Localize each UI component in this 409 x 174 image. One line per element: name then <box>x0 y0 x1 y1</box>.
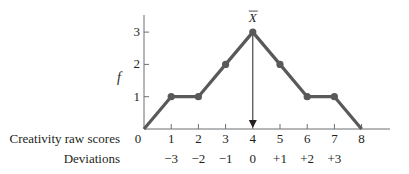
x-tick-label: 4 <box>250 131 257 146</box>
data-point <box>331 93 338 100</box>
deviation-label: 0 <box>250 151 257 166</box>
data-point <box>168 93 175 100</box>
x-tick-labels: 012345678 <box>135 131 365 146</box>
deviation-label: +3 <box>327 151 341 166</box>
y-ticks: 123 <box>134 24 150 104</box>
x-tick-label: 0 <box>135 131 142 146</box>
deviation-label: −2 <box>191 151 205 166</box>
deviations-label: Deviations <box>64 151 120 166</box>
x-tick-label: 2 <box>195 131 202 146</box>
deviation-label: −3 <box>164 151 178 166</box>
x-ticks <box>171 124 361 129</box>
data-point <box>304 93 311 100</box>
x-tick-label: 6 <box>304 131 311 146</box>
frequency-polygon-chart: 123 012345678 −3−2−10+1+2+3 f Creativity… <box>0 0 409 174</box>
y-tick-label: 2 <box>134 56 141 71</box>
data-point <box>195 93 202 100</box>
x-tick-label: 7 <box>331 131 338 146</box>
x-tick-label: 3 <box>222 131 229 146</box>
deviation-labels: −3−2−10+1+2+3 <box>164 151 341 166</box>
data-point <box>249 28 256 35</box>
mean-label: X <box>248 10 258 25</box>
x-tick-label: 8 <box>358 131 365 146</box>
y-tick-label: 1 <box>134 89 141 104</box>
deviation-label: +2 <box>300 151 314 166</box>
x-tick-label: 5 <box>277 131 284 146</box>
y-tick-label: 3 <box>134 24 141 39</box>
deviation-label: −1 <box>219 151 233 166</box>
data-point <box>222 61 229 68</box>
data-point <box>276 61 283 68</box>
y-axis-label: f <box>117 70 123 85</box>
x-axis-label: Creativity raw scores <box>10 131 120 146</box>
mean-arrow-head <box>249 120 257 128</box>
x-tick-label: 1 <box>168 131 175 146</box>
deviation-label: +1 <box>273 151 287 166</box>
